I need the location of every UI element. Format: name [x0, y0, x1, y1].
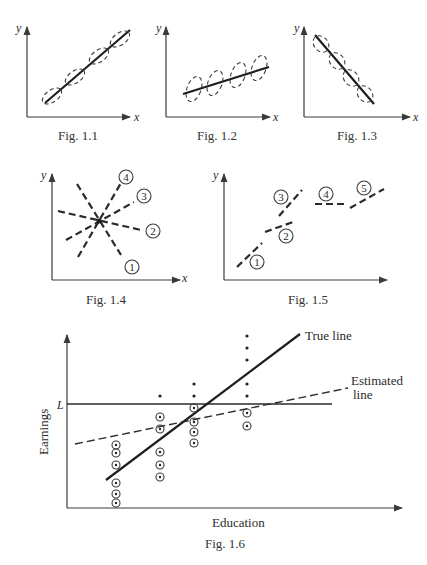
segment-label-5: 5	[361, 182, 367, 194]
segment-label-4: 4	[323, 188, 329, 200]
truncated-dot	[245, 358, 248, 361]
x-axis-label: x	[133, 110, 140, 124]
true-line	[106, 334, 300, 480]
truncated-dot	[192, 394, 195, 397]
segment-2	[265, 221, 296, 232]
truncated-dot	[245, 334, 248, 337]
line-label-1: 1	[129, 261, 135, 273]
caption: Fig. 1.4	[86, 292, 127, 307]
y-axis-label: y	[15, 21, 22, 35]
fig-1-6: Earnings L Education True line Estimated…	[36, 328, 403, 551]
fig-1-3: y x Fig. 1.3	[293, 21, 419, 143]
line-label-4: 4	[123, 171, 129, 183]
line-label-3: 3	[141, 190, 147, 202]
x-axis-label: x	[412, 110, 419, 124]
level-label: L	[56, 398, 64, 412]
truncated-dot	[245, 346, 248, 349]
segment-5	[350, 189, 384, 208]
y-axis-label: y	[293, 21, 300, 35]
segment-label-3: 3	[278, 191, 284, 203]
caption: Fig. 1.1	[58, 128, 98, 143]
segment-label-1: 1	[254, 256, 260, 268]
truncated-dot	[245, 394, 248, 397]
caption: Fig. 1.3	[337, 128, 377, 143]
true-line-label: True line	[305, 328, 352, 343]
segment-label-2: 2	[283, 230, 289, 242]
circled-points-col-4	[243, 334, 251, 430]
y-axis-label: Earnings	[36, 409, 51, 455]
caption: Fig. 1.5	[288, 292, 328, 307]
y-axis-label: y	[155, 21, 162, 35]
truncated-dot	[158, 394, 161, 397]
fig-1-4: y x 1 2 3 4 Fig. 1.4	[40, 168, 188, 307]
estimated-line-label-2: line	[353, 387, 373, 402]
x-axis-label: x	[181, 271, 188, 285]
fig-1-5: y 1 2 3 4 5 Fig. 1.5	[212, 168, 387, 307]
x-axis-label: Education	[212, 515, 265, 530]
regression-line	[315, 35, 374, 104]
intersection-point	[97, 219, 102, 224]
line-label-2: 2	[150, 225, 156, 237]
regression-line	[45, 30, 130, 103]
caption: Fig. 1.2	[197, 128, 237, 143]
fig-1-1: y x Fig. 1.1	[15, 21, 140, 143]
fig-1-2: y x Fig. 1.2	[155, 21, 279, 143]
y-axis-label: y	[40, 168, 47, 182]
estimated-line-label: Estimated	[351, 373, 403, 388]
caption: Fig. 1.6	[205, 536, 246, 551]
truncated-dot	[245, 382, 248, 385]
figure-canvas: y x Fig. 1.1 y x Fig. 1.2 y x Fig. 1.3	[0, 0, 427, 565]
truncated-dot	[192, 382, 195, 385]
x-axis-label: x	[272, 110, 279, 124]
estimated-line	[75, 388, 348, 444]
y-axis-label: y	[212, 168, 219, 182]
